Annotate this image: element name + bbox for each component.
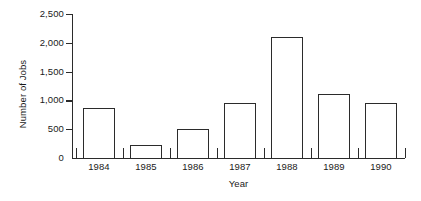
bar-1990 (365, 103, 397, 158)
y-tick-label-2000: 2,000 (4, 38, 64, 48)
x-tick-mark-6 (358, 148, 359, 158)
x-tick-mark-1 (123, 148, 124, 158)
x-tick-mark-0 (76, 148, 77, 158)
x-tick-label-1990: 1990 (351, 161, 411, 173)
x-tick-mark-2 (170, 148, 171, 158)
x-tick-mark-4 (264, 148, 265, 158)
bar-1988 (271, 37, 303, 158)
y-tick-label-1000: 1,000 (4, 95, 64, 105)
x-tick-mark-3 (217, 148, 218, 158)
bar-chart-figure: Number of Jobs 2,500 2,000 1,500 1,000 5… (0, 0, 421, 201)
x-tick-mark-7 (405, 148, 406, 158)
y-tick-label-1500: 1,500 (4, 67, 64, 77)
bar-1987 (224, 103, 256, 158)
x-axis-title: Year (72, 178, 405, 189)
x-tick-mark-5 (311, 148, 312, 158)
bar-1984 (83, 108, 115, 158)
y-axis-line (72, 14, 73, 159)
bar-1985 (130, 145, 162, 158)
bar-1986 (177, 129, 209, 158)
y-tick-label-2500: 2,500 (4, 9, 64, 19)
bar-1989 (318, 94, 350, 157)
y-tick-label-500: 500 (4, 124, 64, 134)
y-tick-label-0: 0 (4, 153, 64, 163)
